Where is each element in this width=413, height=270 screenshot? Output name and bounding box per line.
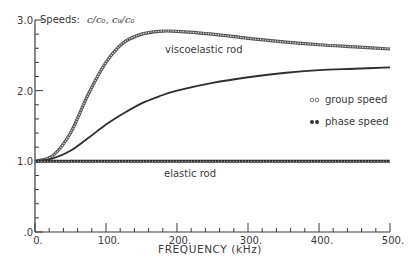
x-tick-label: 100. bbox=[98, 235, 120, 246]
x-axis-title: FREQUENCY (kHz) bbox=[158, 243, 262, 255]
x-tick-label: 400. bbox=[311, 235, 333, 246]
y-tick-label: 1.0 bbox=[17, 156, 33, 167]
y-tick-label: .0 bbox=[23, 227, 33, 238]
speed-chart: .01.02.03.00.100.200.300.400.500. Speeds… bbox=[0, 0, 413, 270]
legend-item-group-speed: group speed bbox=[310, 94, 387, 105]
legend-label-phase-speed: phase speed bbox=[325, 116, 389, 127]
open-dot-icon bbox=[310, 98, 314, 102]
filled-dot-icon bbox=[310, 120, 314, 124]
y-tick-label: 2.0 bbox=[17, 86, 33, 97]
y-tick-label: 3.0 bbox=[17, 15, 33, 26]
annotation-viscoelastic-rod: viscoelastic rod bbox=[165, 44, 243, 55]
chart-title-prefix: Speeds: bbox=[40, 14, 80, 25]
legend-label-group-speed: group speed bbox=[325, 94, 387, 105]
chart-title-formula: c/c₀, c₉/c₀ bbox=[87, 14, 135, 25]
x-tick-label: 500. bbox=[382, 235, 404, 246]
legend-item-phase-speed: phase speed bbox=[310, 116, 389, 127]
open-dot-icon bbox=[315, 98, 319, 102]
x-tick-label: 0. bbox=[33, 235, 43, 246]
annotation-elastic-rod: elastic rod bbox=[164, 168, 216, 179]
legend: group speed phase speed bbox=[310, 94, 389, 127]
filled-dot-icon bbox=[315, 120, 319, 124]
viscoelastic-rod-phase-speed-line bbox=[35, 67, 390, 161]
